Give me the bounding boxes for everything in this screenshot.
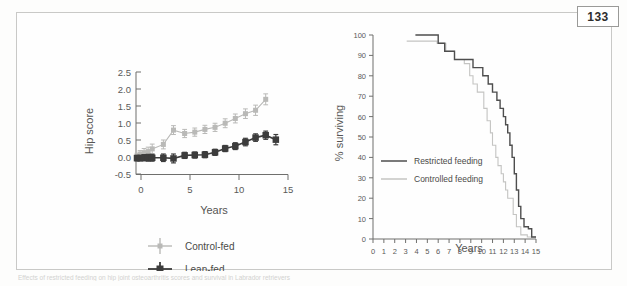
series-control-fed: [135, 94, 269, 160]
legend-marker-lean-fed: [148, 262, 172, 271]
x-tick-label: 4: [414, 247, 418, 256]
y-tick-label: 70: [358, 92, 366, 101]
legend-label-controlled-feeding: Controlled feeding: [414, 174, 483, 184]
x-tick-label: 5: [425, 247, 429, 256]
y-tick-label: 2.5: [118, 67, 131, 78]
x-tick-label: 0: [371, 247, 375, 256]
x-tick-label: 15: [532, 247, 540, 256]
y-tick-label: 50: [358, 133, 366, 142]
y-tick-label: -0.5: [115, 169, 131, 180]
survival-curve-controlled-feeding: [407, 41, 536, 237]
x-tick-label: 14: [521, 247, 529, 256]
page-body-text: Effects of restricted feeding on hip joi…: [18, 274, 610, 281]
page-number: 133: [587, 10, 609, 24]
survival-y-axis-label: % surviving: [333, 105, 345, 161]
x-tick-label: 2: [393, 247, 397, 256]
legend-marker-control-fed: [148, 238, 172, 254]
hip-score-panel: Hip score 2.5 2.0 1.5 1.0 0.5 0.0 -0.5: [17, 13, 317, 271]
y-tick-label: 40: [358, 153, 366, 162]
hip-score-legend: Control-fed Lean-fed: [148, 238, 234, 271]
y-tick-label: 90: [358, 51, 366, 60]
y-tick-label: 1.5: [118, 101, 131, 112]
hip-score-x-ticks: 0 5 10 15: [138, 184, 293, 195]
survival-y-ticks: 0102030405060708090100: [353, 31, 366, 244]
y-tick-label: 80: [358, 72, 366, 81]
x-tick-label: 3: [404, 247, 408, 256]
survival-chart: % surviving 0102030405060708090100 01234…: [317, 13, 611, 271]
x-tick-label: 5: [187, 184, 192, 195]
survival-curve-restricted-feeding: [415, 35, 536, 237]
x-tick-label: 10: [234, 184, 245, 195]
figure-frame: Hip score 2.5 2.0 1.5 1.0 0.5 0.0 -0.5: [16, 12, 612, 270]
y-tick-label: 0.5: [118, 135, 131, 146]
y-tick-label: 0: [362, 235, 366, 244]
y-tick-label: 20: [358, 194, 366, 203]
y-tick-label: 30: [358, 174, 366, 183]
y-tick-label: 1.0: [118, 118, 131, 129]
x-tick-label: 15: [283, 184, 294, 195]
y-tick-label: 0.0: [118, 152, 131, 163]
scanned-page: Hip score 2.5 2.0 1.5 1.0 0.5 0.0 -0.5: [0, 0, 627, 286]
y-tick-label: 2.0: [118, 84, 131, 95]
legend-label-lean-fed: Lean-fed: [185, 264, 224, 271]
x-tick-label: 0: [138, 184, 143, 195]
hip-score-y-ticks: 2.5 2.0 1.5 1.0 0.5 0.0 -0.5: [115, 67, 131, 180]
y-tick-label: 60: [358, 113, 366, 122]
hip-score-axes: [136, 72, 288, 180]
hip-score-chart: Hip score 2.5 2.0 1.5 1.0 0.5 0.0 -0.5: [17, 13, 317, 271]
x-tick-label: 12: [499, 247, 507, 256]
survival-panel: % surviving 0102030405060708090100 01234…: [317, 13, 611, 271]
x-tick-label: 6: [436, 247, 440, 256]
legend-label-restricted-feeding: Restricted feeding: [414, 156, 483, 166]
x-tick-label: 11: [489, 247, 497, 256]
x-tick-label: 7: [447, 247, 451, 256]
y-tick-label: 100: [353, 31, 366, 40]
hip-score-x-axis-label: Years: [200, 204, 228, 216]
survival-x-axis-label: Years: [455, 242, 483, 254]
page-number-badge: 133: [577, 6, 619, 27]
x-tick-label: 1: [382, 247, 386, 256]
y-tick-label: 10: [358, 215, 366, 224]
legend-label-control-fed: Control-fed: [185, 241, 234, 252]
hip-score-y-axis-label: Hip score: [83, 108, 95, 154]
survival-axes: [369, 35, 536, 243]
survival-legend: Restricted feeding Controlled feeding: [381, 156, 483, 184]
x-tick-label: 13: [510, 247, 518, 256]
